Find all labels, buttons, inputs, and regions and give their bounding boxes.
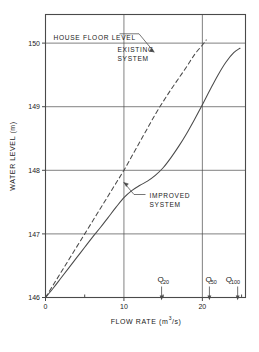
y-tick-label-150: 150	[28, 40, 40, 47]
q20-marker-subscript: 20	[163, 279, 169, 285]
q100-marker-subscript: 100	[231, 279, 240, 285]
house-floor-level-label: HOUSE FLOOR LEVEL	[54, 34, 136, 41]
improved-system-label-line1: IMPROVED	[150, 192, 191, 199]
chart-figure: 14614714814915001020HOUSE FLOOR LEVELEXI…	[0, 0, 259, 352]
y-tick-label-149: 149	[28, 103, 40, 110]
y-tick-label-147: 147	[28, 231, 40, 238]
improved-system-leader-arrowhead	[124, 182, 129, 186]
q50-marker-subscript: 50	[211, 279, 217, 285]
water-level-flow-rate-chart: 14614714814915001020HOUSE FLOOR LEVELEXI…	[0, 0, 259, 352]
x-tick-label-10: 10	[120, 303, 128, 310]
series-existing-system	[46, 40, 207, 298]
x-tick-label-20: 20	[198, 303, 206, 310]
y-axis-title: WATER LEVEL (m)	[9, 121, 17, 190]
x-tick-label-0: 0	[44, 303, 48, 310]
y-tick-label-146: 146	[28, 294, 40, 301]
y-tick-label-148: 148	[28, 167, 40, 174]
existing-system-label-line2: SYSTEM	[118, 55, 149, 62]
x-axis-title: FLOW RATE (m	[111, 318, 169, 326]
existing-system-label-line1: EXISTING	[118, 46, 154, 53]
x-axis-title-units-tail: /s)	[172, 318, 182, 326]
series-improved-system	[46, 48, 241, 297]
improved-system-label-line2: SYSTEM	[150, 201, 181, 208]
